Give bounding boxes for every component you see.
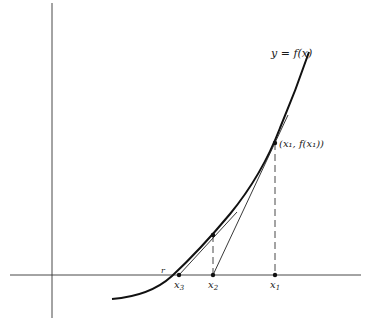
x3-label: x3 — [174, 279, 185, 292]
point-x2-f-x2 — [211, 233, 215, 237]
function-curve — [112, 52, 309, 299]
x1-label: x1 — [270, 279, 280, 292]
root-label: r — [161, 266, 166, 275]
curve-label: y = f(x) — [270, 47, 312, 60]
point-x2 — [211, 273, 215, 277]
point-label: (x₁, f(x₁)) — [279, 138, 324, 149]
point-x1 — [273, 273, 277, 277]
x2-label: x2 — [208, 279, 219, 292]
newton-method-diagram: y = f(x) (x₁, f(x₁)) r x3 x2 x1 — [0, 0, 371, 319]
tangent-line-at-x1 — [213, 115, 288, 275]
point-x3 — [177, 273, 181, 277]
point-x1-f-x1 — [273, 141, 277, 145]
tangent-line-at-x2 — [179, 212, 237, 275]
